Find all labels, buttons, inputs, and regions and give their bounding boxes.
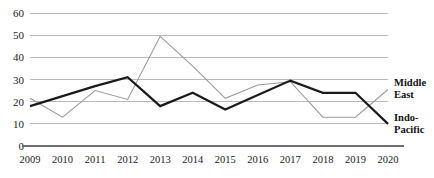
y-tick-label: 10: [13, 118, 25, 130]
series-label-middle-east: Middle: [394, 77, 426, 88]
x-tick-label: 2014: [182, 154, 204, 165]
series-end-labels: Indo-PacificMiddleEast: [394, 77, 426, 134]
line-chart: 0102030405060 20092010201120122013201420…: [0, 0, 434, 178]
series-label-middle-east: East: [394, 89, 414, 100]
x-tick-label: 2018: [312, 154, 333, 165]
x-tick-label: 2011: [85, 154, 106, 165]
series-line-middle-east: [30, 36, 388, 117]
x-tick-label: 2017: [280, 154, 301, 165]
x-tick-label: 2013: [150, 154, 171, 165]
series-label-indo-pacific: Indo-: [394, 112, 419, 123]
x-tick-label: 2020: [378, 154, 399, 165]
x-tick-label: 2016: [247, 154, 268, 165]
x-tick-label: 2015: [215, 154, 236, 165]
series-label-indo-pacific: Pacific: [394, 124, 425, 135]
y-tick-label: 50: [13, 29, 25, 41]
x-tick-label: 2010: [52, 154, 73, 165]
x-tick-label: 2019: [345, 154, 366, 165]
x-tick-label: 2012: [117, 154, 138, 165]
series-lines: [30, 36, 388, 124]
y-tick-label: 30: [13, 74, 25, 86]
chart-canvas: 0102030405060 20092010201120122013201420…: [0, 0, 434, 178]
y-tick-label: 40: [13, 51, 25, 63]
x-axis-tick-labels: 2009201020112012201320142015201620172018…: [20, 154, 399, 165]
y-tick-label: 60: [13, 7, 25, 19]
gridlines: [30, 13, 388, 124]
y-axis-tick-labels: 0102030405060: [13, 7, 25, 152]
y-tick-label: 20: [13, 96, 25, 108]
x-tick-label: 2009: [20, 154, 41, 165]
